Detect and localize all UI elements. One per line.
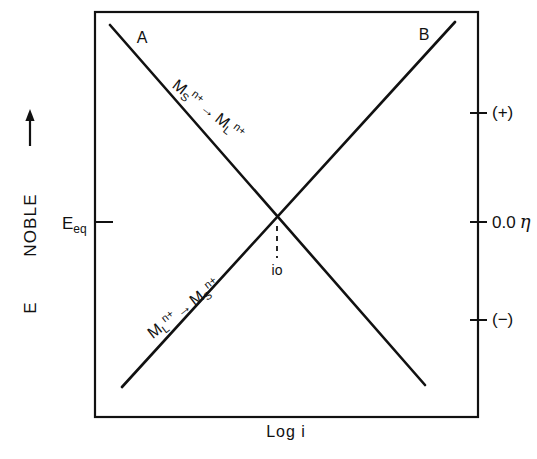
axis-direction-label-noble: NOBLE <box>22 193 39 257</box>
tick-label-zero-value: 0.0 <box>492 213 516 232</box>
exchange-current-label: io <box>272 263 283 277</box>
eta-symbol: η <box>516 211 531 232</box>
figure-panel: NOBLE E Eeq (+) 0.0η (−) Log i A B io MS… <box>0 0 537 459</box>
curve-label-a: A <box>137 30 148 46</box>
tick-label-positive: (+) <box>492 104 513 121</box>
tick-label-negative: (−) <box>492 311 513 328</box>
curve-b-line <box>122 22 455 387</box>
tick-label-eeq-base: E <box>62 214 73 233</box>
up-arrow-icon <box>25 109 34 146</box>
axis-quantity-label-e: E <box>22 302 39 313</box>
x-axis-title: Log i <box>266 424 306 440</box>
curve-label-b: B <box>419 27 430 43</box>
tick-label-eeq: Eeq <box>62 215 87 235</box>
tick-label-zero-eta: 0.0η <box>492 213 530 231</box>
tick-label-eeq-subscript: eq <box>73 222 86 236</box>
